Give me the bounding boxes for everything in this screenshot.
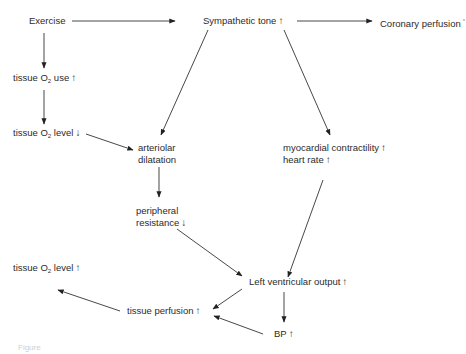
node-label: resistance [136, 217, 179, 228]
increase-arrow-icon: ↑ [71, 72, 76, 83]
increase-arrow-icon: ↑ [75, 262, 80, 273]
node-label: arteriolar [138, 142, 176, 154]
node-label: Sympathetic tone [203, 15, 276, 26]
figure-caption: Figure [18, 343, 41, 352]
node-label: tissue O [13, 262, 48, 273]
increase-arrow-icon: ↑ [278, 15, 283, 26]
node-label: tissue O [13, 127, 48, 138]
node-blood-pressure: BP↑ [274, 328, 294, 340]
decrease-arrow-icon: ↓ [181, 217, 186, 228]
node-exercise: Exercise [29, 15, 65, 27]
node-myocardial-contractility-heart-rate: myocardial contractility↑ heart rate↑ [283, 142, 386, 166]
node-label: peripheral [136, 205, 186, 217]
node-label: BP [274, 328, 287, 339]
node-label: tissue O [13, 72, 48, 83]
node-label: Left ventricular output [249, 276, 340, 287]
increase-arrow-icon: * [463, 18, 465, 24]
decrease-arrow-icon: ↓ [75, 127, 80, 138]
node-arteriolar-dilatation: arteriolar dilatation [138, 142, 176, 166]
increase-arrow-icon: ↑ [289, 328, 294, 339]
node-tissue-o2-level-increase: tissue O2 level↑ [13, 262, 80, 277]
node-peripheral-resistance: peripheral resistance↓ [136, 205, 186, 229]
node-label: myocardial contractility [283, 142, 379, 153]
node-label: level [51, 127, 73, 138]
node-coronary-perfusion: Coronary perfusion* [380, 15, 465, 30]
node-label: use [51, 72, 69, 83]
node-tissue-o2-level-decrease: tissue O2 level↓ [13, 127, 80, 142]
node-label: heart rate [283, 154, 324, 165]
exercise-physiology-diagram: Exercise Sympathetic tone↑ Coronary perf… [0, 0, 466, 354]
node-label: Exercise [29, 15, 65, 26]
node-label: level [51, 262, 73, 273]
node-sympathetic-tone: Sympathetic tone↑ [203, 15, 283, 27]
node-label: dilatation [138, 154, 176, 166]
node-label: tissue perfusion [127, 305, 194, 316]
increase-arrow-icon: ↑ [326, 154, 331, 165]
node-tissue-o2-use: tissue O2 use↑ [13, 72, 76, 87]
node-tissue-perfusion: tissue perfusion↑ [127, 305, 201, 317]
connector-arrows [0, 0, 466, 354]
increase-arrow-icon: ↑ [342, 276, 347, 287]
node-left-ventricular-output: Left ventricular output↑ [249, 276, 347, 288]
increase-arrow-icon: ↑ [381, 142, 386, 153]
increase-arrow-icon: ↑ [196, 305, 201, 316]
node-label: Coronary perfusion [380, 18, 461, 29]
